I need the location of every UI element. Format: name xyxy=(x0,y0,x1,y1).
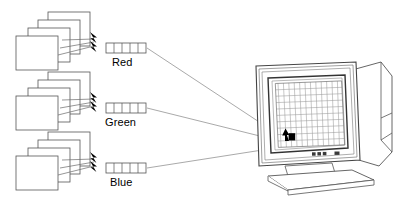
green-plane-stack xyxy=(16,72,90,130)
label-green: Green xyxy=(105,116,136,128)
crt-monitor xyxy=(256,62,392,195)
label-red: Red xyxy=(112,56,132,68)
blue-plane-stack xyxy=(16,132,90,190)
label-blue: Blue xyxy=(110,176,132,188)
lit-pixel xyxy=(289,133,296,140)
diagram-canvas: Red Green Blue xyxy=(0,0,405,201)
diagram-svg xyxy=(0,0,405,201)
red-register-bar xyxy=(106,43,146,53)
red-plane-stack xyxy=(16,12,90,70)
green-register-bar xyxy=(106,103,146,113)
blue-register-bar xyxy=(106,163,146,173)
